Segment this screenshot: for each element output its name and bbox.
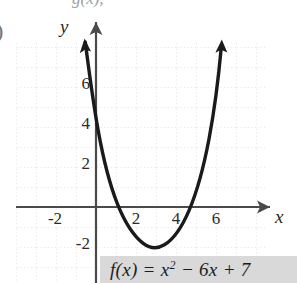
x-axis-label: x xyxy=(275,206,283,228)
y-tick--2: -2 xyxy=(60,234,90,254)
x-tick-6: 6 xyxy=(204,209,228,229)
x-tick--2: -2 xyxy=(42,209,68,229)
equation-text: f(x) = x2 − 6x + 7 xyxy=(100,258,251,281)
x-tick-2: 2 xyxy=(124,209,148,229)
equation-prefix: f(x) = x xyxy=(110,259,170,280)
y-tick-4: 4 xyxy=(68,114,90,134)
coordinate-plane xyxy=(0,0,297,283)
parabola-figure: g(x), ) y x -2 xyxy=(0,0,297,283)
x-tick-4: 4 xyxy=(164,209,188,229)
y-axis-label: y xyxy=(60,16,68,38)
grid-background xyxy=(16,42,265,283)
equation-suffix: − 6x + 7 xyxy=(176,259,251,280)
y-tick-2: 2 xyxy=(68,154,90,174)
y-tick-6: 6 xyxy=(68,74,90,94)
equation-callout: f(x) = x2 − 6x + 7 xyxy=(100,256,297,283)
